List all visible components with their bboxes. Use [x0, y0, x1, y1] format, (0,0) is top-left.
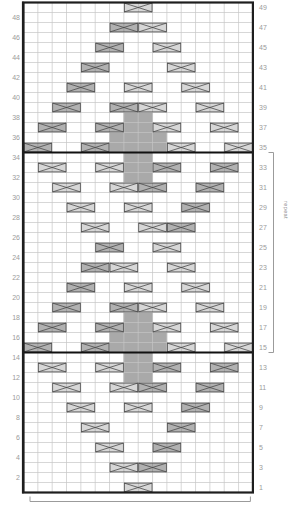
cable-symbol [124, 3, 152, 12]
knitting-chart-svg [0, 0, 289, 509]
row-number-right: 37 [259, 124, 273, 132]
cable-symbol [153, 123, 181, 132]
cable-symbol [81, 343, 109, 352]
row-number-left: 8 [3, 414, 20, 422]
row-number-left: 18 [3, 314, 20, 322]
row-number-right: 7 [259, 424, 273, 432]
cable-symbol [210, 363, 238, 372]
cable-symbol [96, 363, 124, 372]
cable-symbol [167, 63, 195, 72]
cable-symbol [96, 443, 124, 452]
cable-symbol [139, 303, 167, 312]
row-number-left: 24 [3, 254, 20, 262]
cable-symbol [110, 183, 138, 192]
cable-symbol [167, 343, 195, 352]
row-number-left: 6 [3, 434, 20, 442]
row-number-left: 12 [3, 374, 20, 382]
row-number-right: 49 [259, 4, 273, 12]
row-number-left: 38 [3, 114, 20, 122]
cable-symbol [210, 323, 238, 332]
row-number-right: 17 [259, 324, 273, 332]
cable-symbol [139, 183, 167, 192]
cable-symbol [96, 243, 124, 252]
row-number-left: 32 [3, 174, 20, 182]
row-number-left: 22 [3, 274, 20, 282]
row-number-right: 11 [259, 384, 273, 392]
row-number-right: 33 [259, 164, 273, 172]
row-number-right: 3 [259, 464, 273, 472]
cable-symbol [96, 163, 124, 172]
cable-symbol [182, 203, 210, 212]
cable-symbol [167, 423, 195, 432]
row-number-right: 43 [259, 64, 273, 72]
row-number-right: 23 [259, 264, 273, 272]
cable-symbol [124, 283, 152, 292]
row-number-left: 36 [3, 134, 20, 142]
cable-symbol [124, 203, 152, 212]
cable-symbol [210, 123, 238, 132]
row-number-left: 46 [3, 34, 20, 42]
row-number-left: 16 [3, 334, 20, 342]
cable-symbol [196, 303, 224, 312]
cable-symbol [210, 163, 238, 172]
cable-symbol [81, 423, 109, 432]
row-number-left: 40 [3, 94, 20, 102]
cable-symbol [81, 223, 109, 232]
row-number-right: 47 [259, 24, 273, 32]
cable-symbol [110, 263, 138, 272]
cable-symbol [182, 283, 210, 292]
cable-symbol [96, 123, 124, 132]
cable-symbol [96, 323, 124, 332]
row-number-left: 26 [3, 234, 20, 242]
cable-symbol [53, 383, 81, 392]
cable-symbol [139, 103, 167, 112]
row-number-left: 14 [3, 354, 20, 362]
cable-symbol [124, 483, 152, 492]
cable-symbol [110, 103, 138, 112]
cable-symbol [139, 223, 167, 232]
row-number-left: 44 [3, 54, 20, 62]
cable-symbol [24, 143, 52, 152]
cable-symbol [38, 123, 66, 132]
row-number-left: 2 [3, 474, 20, 482]
cable-symbol [124, 83, 152, 92]
cable-symbol [153, 43, 181, 52]
row-number-right: 41 [259, 84, 273, 92]
cable-symbol [153, 243, 181, 252]
row-number-left: 30 [3, 194, 20, 202]
cable-symbol [53, 103, 81, 112]
cable-symbol [53, 183, 81, 192]
cable-symbol [153, 323, 181, 332]
cable-symbol [167, 263, 195, 272]
cable-symbol [139, 383, 167, 392]
cable-symbol [139, 463, 167, 472]
cable-symbol [153, 163, 181, 172]
cable-symbol [225, 143, 253, 152]
cable-symbol [182, 403, 210, 412]
cable-symbol [167, 143, 195, 152]
cable-symbol [153, 443, 181, 452]
cable-symbol [196, 183, 224, 192]
cable-symbol [110, 463, 138, 472]
cable-symbol [110, 23, 138, 32]
row-number-right: 19 [259, 304, 273, 312]
cable-symbol [81, 143, 109, 152]
row-number-left: 28 [3, 214, 20, 222]
cable-symbol [67, 203, 95, 212]
row-number-right: 9 [259, 404, 273, 412]
row-number-left: 48 [3, 14, 20, 22]
repeat-note: repeat [281, 201, 289, 247]
row-number-left: 10 [3, 394, 20, 402]
cable-symbol [153, 363, 181, 372]
cable-symbol [124, 403, 152, 412]
cable-symbol [110, 303, 138, 312]
cable-symbol [110, 383, 138, 392]
cable-symbol [196, 383, 224, 392]
row-number-left: 42 [3, 74, 20, 82]
cable-symbol [225, 343, 253, 352]
row-number-right: 45 [259, 44, 273, 52]
cable-symbol [96, 43, 124, 52]
row-number-right: 13 [259, 364, 273, 372]
cable-symbol [182, 83, 210, 92]
knitting-chart: 4846444240383634323028262422201816141210… [0, 0, 289, 509]
